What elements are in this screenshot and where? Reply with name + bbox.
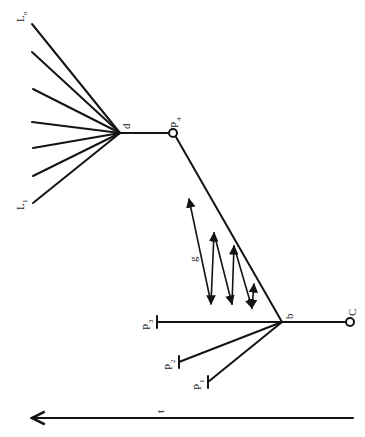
fan-line <box>32 52 120 133</box>
label-P4: P 4 <box>168 117 183 128</box>
fan-line <box>32 122 120 133</box>
label-P2: P 2 <box>162 359 177 370</box>
svg-text:3: 3 <box>147 319 155 323</box>
node-P4 <box>169 129 177 137</box>
zigzag-arrow <box>252 284 254 308</box>
label-C: C <box>346 309 358 316</box>
svg-text:L: L <box>14 15 26 22</box>
svg-text:P: P <box>162 364 174 370</box>
svg-text:2: 2 <box>169 359 177 363</box>
svg-text:n: n <box>21 11 29 15</box>
fan-line <box>33 133 120 176</box>
fan-line <box>33 89 120 133</box>
label-t: t <box>154 410 166 413</box>
diagram-canvas: L n L 1 d P 4 g b C P 3 P 2 <box>0 0 365 437</box>
zigzag-arrow <box>232 246 234 304</box>
svg-text:4: 4 <box>175 117 183 121</box>
svg-text:1: 1 <box>21 199 29 203</box>
zigzag-arrow <box>214 233 232 304</box>
label-P3: P 3 <box>140 319 155 330</box>
svg-text:P: P <box>140 324 152 330</box>
label-g: g <box>187 256 199 262</box>
label-P1: P 1 <box>191 379 206 390</box>
fan-line <box>33 133 120 203</box>
label-b: b <box>283 313 295 319</box>
fan-lines <box>32 24 120 203</box>
label-Ln: L n <box>14 11 29 22</box>
zigzag-arrow <box>189 199 211 303</box>
label-d: d <box>120 123 132 129</box>
svg-text:L: L <box>14 203 26 210</box>
edge-b-P1 <box>208 322 282 382</box>
zigzag-arrow <box>211 233 214 303</box>
svg-text:1: 1 <box>198 379 206 383</box>
fan-line <box>32 24 120 133</box>
svg-text:P: P <box>191 384 203 390</box>
edge-b-P2 <box>179 322 282 362</box>
node-C <box>346 318 354 326</box>
label-L1: L 1 <box>14 199 29 210</box>
svg-text:P: P <box>168 122 180 128</box>
